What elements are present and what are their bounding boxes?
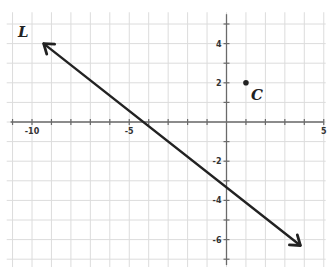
x-tick-label: 5 [321,127,327,136]
coordinate-plane: -10-5542-2-4-6 L C [0,0,333,273]
line-l [44,44,301,246]
y-tick-label: -6 [213,236,222,245]
y-tick-label: 4 [216,40,222,49]
x-tick-label: -10 [25,127,40,136]
point-label: C [251,86,263,104]
y-tick-label: -4 [213,196,222,205]
line-label: L [17,23,29,41]
x-tick-label: -5 [125,127,134,136]
point-c [243,80,249,86]
y-tick-label: 2 [216,79,222,88]
y-tick-label: -2 [213,157,222,166]
